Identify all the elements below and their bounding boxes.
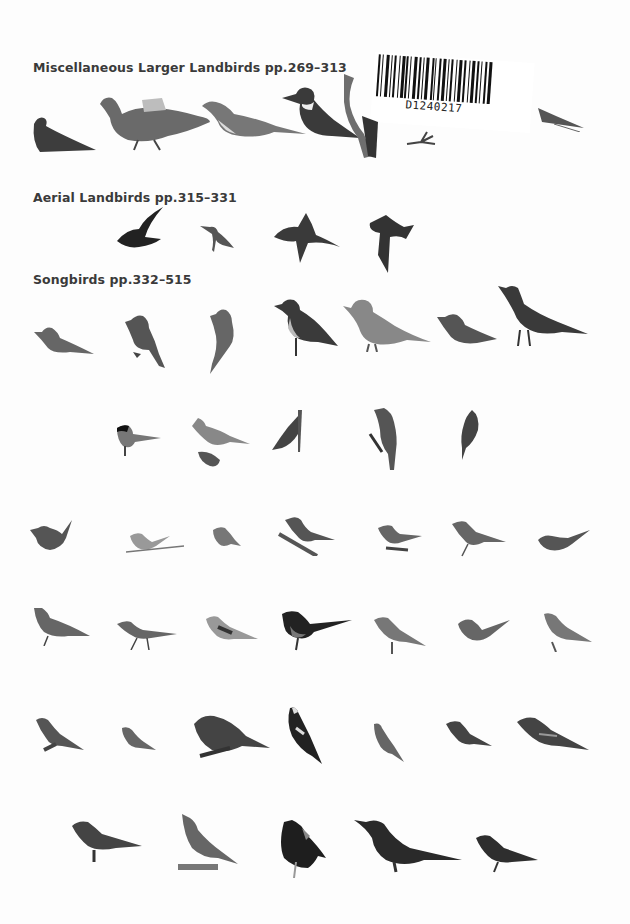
nuthatch-icon: [270, 410, 306, 454]
house-sparrow-icon: [542, 612, 594, 652]
finch-icon: [372, 722, 406, 762]
robin-icon: [498, 284, 590, 348]
towhee-icon: [280, 610, 354, 652]
hummingbird-icon: [200, 222, 236, 254]
shrike-icon: [437, 313, 499, 351]
bluebird-icon: [378, 524, 424, 554]
grackle-icon: [354, 816, 466, 874]
gnatcatcher-icon: [126, 532, 186, 558]
phoebe-icon: [125, 314, 167, 370]
flycatcher-icon: [206, 308, 242, 376]
wren-icon: [30, 520, 74, 556]
kingbird-icon: [274, 298, 340, 358]
section-title-aerial-landbirds: Aerial Landbirds pp.315–331: [33, 190, 237, 205]
woodpecker-icon: [340, 72, 382, 160]
bobolink-icon: [282, 706, 328, 766]
bird-foot-icon: [405, 130, 437, 148]
pewee-icon: [34, 326, 96, 358]
thrasher-icon: [452, 520, 508, 558]
swift-icon: [115, 207, 167, 249]
grosbeak-icon: [192, 714, 272, 758]
cowbird-icon: [476, 834, 542, 874]
pigeon-icon: [98, 94, 213, 152]
section-title-misc-landbirds: Miscellaneous Larger Landbirds pp.269–31…: [33, 60, 347, 75]
barcode-bars: [376, 54, 529, 106]
creeper-icon: [456, 410, 482, 460]
crossbill-icon: [446, 720, 494, 754]
thrush-icon: [277, 516, 339, 556]
chickadee-icon: [115, 424, 163, 456]
pipit-icon: [117, 620, 179, 650]
nightjar-icon: [30, 112, 98, 154]
barcode-number: D1240217: [405, 98, 463, 115]
bunting-icon: [204, 615, 260, 653]
mockingbird-icon: [343, 298, 433, 352]
sparrow-icon: [374, 616, 428, 656]
meadowlark-icon: [178, 812, 240, 870]
goldfinch-icon: [120, 726, 158, 754]
starling-icon: [72, 820, 144, 864]
waxwing-icon: [368, 408, 402, 472]
partial-bird-tail-icon: [536, 106, 586, 132]
kinglet-icon: [211, 526, 243, 552]
warbler-icon: [538, 530, 592, 560]
cardinal-female-icon: [34, 716, 86, 756]
longspur-icon: [32, 606, 92, 646]
field-guide-page: Miscellaneous Larger Landbirds pp.269–31…: [0, 0, 630, 924]
martin-icon: [366, 215, 416, 275]
library-barcode: D1240217: [370, 52, 534, 133]
junco-icon: [458, 618, 512, 652]
red-winged-blackbird-icon: [278, 818, 340, 880]
titmouse-icon: [190, 416, 252, 468]
swallow-icon: [272, 213, 342, 265]
section-title-songbirds: Songbirds pp.332–515: [33, 272, 192, 287]
oriole-icon: [517, 716, 591, 756]
